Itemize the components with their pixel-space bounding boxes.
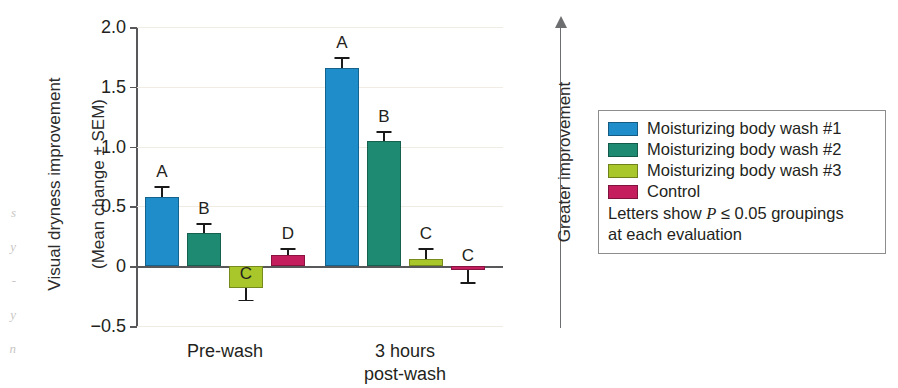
chart-plot-area: 2.01.51.00.50−0.5ABCDPre-washABCC3 hours… xyxy=(137,27,503,326)
y-axis-title-line1: Visual dryness improvement xyxy=(45,77,64,290)
y-axis-tick xyxy=(130,147,137,149)
bar[interactable] xyxy=(145,197,179,266)
bar[interactable] xyxy=(367,141,401,267)
error-bar-cap xyxy=(461,282,476,284)
significance-letter: D xyxy=(282,224,294,244)
bar[interactable] xyxy=(409,259,443,266)
legend-item[interactable]: Moisturizing body wash #2 xyxy=(608,139,876,160)
error-bar-cap xyxy=(419,248,434,250)
y-axis-tick-label: −0.5 xyxy=(90,316,126,337)
y-axis-tick-label: 0.5 xyxy=(101,196,126,217)
significance-letter: B xyxy=(378,107,389,127)
significance-letter: C xyxy=(240,264,252,284)
y-axis-tick xyxy=(130,206,137,208)
greater-improvement-annotation: Greater improvement xyxy=(531,16,591,328)
y-axis-tick xyxy=(130,87,137,89)
error-bar xyxy=(467,270,469,282)
y-axis-line xyxy=(136,27,138,326)
gridline xyxy=(137,27,503,28)
legend-item[interactable]: Control xyxy=(608,181,876,202)
legend-color-swatch xyxy=(608,185,638,199)
y-axis-tick-label: 1.5 xyxy=(101,76,126,97)
error-bar-cap xyxy=(281,248,296,250)
legend-item[interactable]: Moisturizing body wash #1 xyxy=(608,118,876,139)
y-axis-tick-label: 1.0 xyxy=(101,136,126,157)
error-bar-cap xyxy=(377,131,392,133)
arrow-label: Greater improvement xyxy=(555,42,575,282)
legend-note-p-symbol: P xyxy=(706,204,716,223)
bar[interactable] xyxy=(271,255,305,266)
significance-letter: C xyxy=(420,224,432,244)
legend-item-label: Moisturizing body wash #3 xyxy=(647,161,841,180)
error-bar-cap xyxy=(197,223,212,225)
error-bar-cap xyxy=(335,57,350,59)
legend-item-label: Moisturizing body wash #2 xyxy=(647,140,841,159)
y-axis-tick-label: 0 xyxy=(116,256,126,277)
gridline xyxy=(137,206,503,207)
bar[interactable] xyxy=(187,233,221,266)
y-axis-title-line2: (Mean change ± SEM) xyxy=(89,99,108,269)
y-axis-tick xyxy=(130,27,137,29)
chart-legend: Moisturizing body wash #1Moisturizing bo… xyxy=(598,110,886,254)
significance-letter: A xyxy=(336,33,347,53)
x-axis-tick-label: Pre-wash xyxy=(187,340,263,363)
page-edge-bleed-text: s y - y n xyxy=(0,196,16,376)
error-bar-cap xyxy=(239,300,254,302)
legend-color-swatch xyxy=(608,164,638,178)
x-axis-tick-label: 3 hours post-wash xyxy=(364,340,446,386)
y-axis-tick xyxy=(130,326,137,328)
legend-item[interactable]: Moisturizing body wash #3 xyxy=(608,160,876,181)
legend-note: Letters show P ≤ 0.05 groupingsat each e… xyxy=(608,203,876,245)
y-axis-title: Visual dryness improvement (Mean change … xyxy=(22,14,110,354)
legend-color-swatch xyxy=(608,122,638,136)
gridline xyxy=(137,147,503,148)
gridline xyxy=(137,87,503,88)
zero-baseline xyxy=(131,266,503,268)
legend-item-label: Control xyxy=(647,182,700,201)
significance-letter: C xyxy=(462,246,474,266)
gridline xyxy=(137,326,503,327)
bar[interactable] xyxy=(325,68,359,267)
error-bar xyxy=(245,288,247,300)
error-bar-cap xyxy=(155,186,170,188)
legend-item-label: Moisturizing body wash #1 xyxy=(647,119,841,138)
significance-letter: A xyxy=(156,162,167,182)
significance-letter: B xyxy=(198,199,209,219)
legend-color-swatch xyxy=(608,143,638,157)
y-axis-tick-label: 2.0 xyxy=(101,17,126,38)
